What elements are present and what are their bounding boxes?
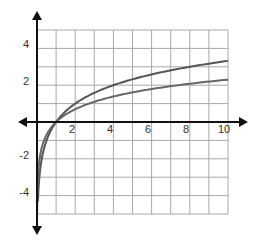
x-tick-label: 2 — [69, 123, 75, 135]
y-axis-up-arrow-icon — [32, 11, 42, 20]
y-tick-label: 2 — [23, 75, 29, 87]
y-tick-labels: 4 2 -2 -4 — [19, 38, 29, 198]
x-axis-left-arrow-icon — [18, 117, 27, 127]
y-tick-label: -4 — [19, 186, 29, 198]
y-tick-label: 4 — [23, 38, 29, 50]
x-tick-label: 8 — [183, 123, 189, 135]
x-tick-labels: 2 4 6 8 10 — [69, 123, 230, 135]
x-tick-label: 4 — [107, 123, 113, 135]
x-tick-label: 6 — [145, 123, 151, 135]
y-axis-down-arrow-icon — [32, 226, 42, 235]
y-tick-label: -2 — [19, 149, 29, 161]
log-graph: 2 4 6 8 10 4 2 -2 -4 — [0, 0, 256, 247]
x-axis-right-arrow-icon — [239, 117, 248, 127]
x-tick-label: 10 — [218, 123, 230, 135]
